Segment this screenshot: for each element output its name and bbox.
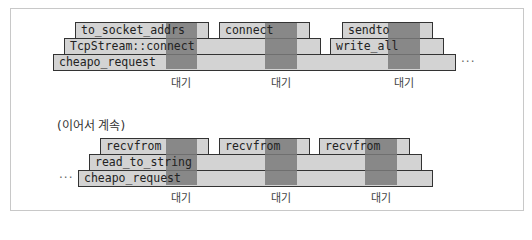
bar-label: recvfrom (106, 139, 161, 154)
bar-label: to_socket_addrs (81, 23, 185, 38)
wait-label: 대기 (161, 74, 201, 90)
bar-label: sendto (348, 23, 390, 38)
wait-label: 대기 (161, 189, 201, 205)
bar-label: cheapo_request (59, 55, 156, 70)
ellipsis: ··· (59, 171, 73, 185)
bar-label: connect (225, 23, 273, 38)
bar-label: recvfrom (325, 139, 380, 154)
bar-label: recvfrom (225, 139, 280, 154)
wait-label: 대기 (261, 74, 301, 90)
ellipsis: ··· (461, 55, 475, 69)
wait-label: 대기 (261, 189, 301, 205)
wait-label: 대기 (384, 74, 424, 90)
bar-write-all: write_all (330, 38, 444, 55)
bar-label: read_to_string (95, 155, 192, 170)
bar-label: write_all (336, 39, 398, 54)
bar-label: TcpStream::connect (70, 39, 195, 54)
wait-label: 대기 (361, 189, 401, 205)
bar-label: cheapo_request (84, 171, 181, 186)
continuation-label: (이어서 계속) (57, 116, 125, 133)
